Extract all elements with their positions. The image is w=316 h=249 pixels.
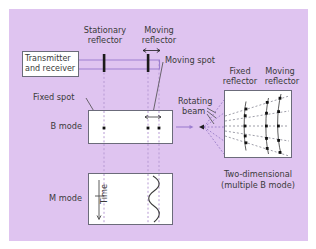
transmitter-and-receiver-box: Transmitter and receiver [22, 51, 79, 77]
m-mode-label: M mode [32, 194, 82, 203]
b-mode-dot-moving-a [147, 127, 150, 130]
moving-reflector-bar [147, 54, 150, 72]
time-axis-label: Time [99, 184, 109, 204]
two-d-dot [277, 110, 280, 113]
two-d-dot [265, 112, 268, 115]
two-d-dot [244, 125, 247, 128]
two-d-dot [245, 141, 248, 144]
panel-fixed-reflector-label-line2: reflector [217, 77, 263, 86]
stationary-reflector-label-line2: reflector [74, 36, 136, 45]
two-dimensional-label-line2: (multiple B mode) [203, 181, 313, 190]
b-mode-dot-moving-b [158, 127, 161, 130]
moving-reflector-arrow-top [143, 49, 160, 53]
two-d-dot [279, 151, 282, 154]
moving-reflector-label-line2: reflector [132, 36, 186, 45]
two-d-dot [244, 114, 247, 117]
fixed-spot-label: Fixed spot [33, 93, 75, 102]
b-mode-label: B mode [32, 122, 82, 131]
panel-fixed-reflector-label-line1: Fixed [220, 67, 260, 76]
leader-moving-spot [153, 62, 163, 113]
panel-moving-reflector-label-line1: Moving [258, 67, 302, 76]
figure-root: Transmitter and receiver Stationary refl… [0, 0, 316, 249]
two-d-dot [244, 135, 247, 138]
moving-reflector-label-line1: Moving [132, 26, 186, 35]
two-d-dot [245, 108, 248, 111]
two-d-dot [266, 101, 269, 104]
two-d-dot [266, 147, 269, 150]
b-mode-to-fan-arrow [176, 125, 194, 129]
moving-spot-label: Moving spot [165, 56, 215, 65]
two-d-dot [279, 97, 282, 100]
two-d-dot [277, 125, 280, 128]
two-dimensional-box [225, 91, 292, 158]
transmitter-label-line1: Transmitter [25, 54, 71, 63]
b-mode-dot-fixed [103, 127, 106, 130]
stationary-reflector-bar [103, 54, 106, 72]
two-d-dot [265, 137, 268, 140]
two-d-dot [265, 125, 268, 128]
transmitter-label-line2: and receiver [25, 64, 75, 73]
rotating-beam-label-line1: Rotating [178, 97, 212, 106]
two-d-dot [277, 139, 280, 142]
rotating-beam-label-line2: beam [182, 107, 205, 116]
panel-moving-reflector-label-line2: reflector [258, 77, 306, 86]
stationary-reflector-label-line1: Stationary [74, 26, 136, 35]
two-dimensional-label-line1: Two-dimensional [203, 170, 313, 179]
